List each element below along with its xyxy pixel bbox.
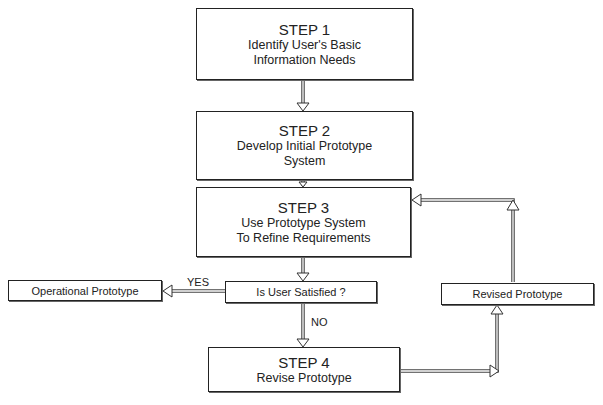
decision-label: Is User Satisfied ? [256,286,345,298]
step-1-desc-line-2: Information Needs [253,53,355,68]
no-label: NO [311,316,328,328]
operational-prototype-box: Operational Prototype [8,280,162,301]
step-1-box: STEP 1 Identify User's Basic Information… [196,8,413,80]
step-1-desc-line-1: Identify User's Basic [248,38,361,53]
step-4-title: STEP 4 [278,354,329,371]
step-2-box: STEP 2 Develop Initial Prototype System [196,111,413,180]
step-1-title: STEP 1 [279,21,330,38]
yes-label: YES [187,276,209,288]
step-2-desc-line-2: System [284,154,326,169]
step-3-desc-line-1: Use Prototype System [241,216,365,231]
step-3-box: STEP 3 Use Prototype System To Refine Re… [196,187,411,257]
revised-prototype-label: Revised Prototype [473,288,563,300]
step-3-desc-line-2: To Refine Requirements [236,231,370,246]
decision-box: Is User Satisfied ? [225,281,377,303]
operational-prototype-label: Operational Prototype [31,285,138,297]
step-4-box: STEP 4 Revise Prototype [208,347,400,392]
revised-prototype-box: Revised Prototype [441,283,594,305]
step-4-desc-line-1: Revise Prototype [256,371,351,386]
step-2-desc-line-1: Develop Initial Prototype [237,139,373,154]
step-3-title: STEP 3 [278,199,329,216]
step-2-title: STEP 2 [279,122,330,139]
